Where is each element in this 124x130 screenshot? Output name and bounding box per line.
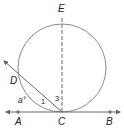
label-a: A bbox=[14, 116, 22, 127]
label-arc-a-degrees: a° bbox=[18, 95, 27, 105]
label-b: B bbox=[106, 116, 113, 127]
label-d: D bbox=[10, 75, 17, 86]
point-b-dot bbox=[108, 110, 112, 114]
label-c: C bbox=[58, 116, 66, 127]
label-angle-3: 3 bbox=[55, 94, 59, 103]
label-angle-1: 1 bbox=[41, 97, 45, 106]
label-e: E bbox=[58, 3, 65, 14]
geometry-diagram: E D A C B a° 1 3 bbox=[0, 0, 124, 130]
point-a-dot bbox=[16, 110, 20, 114]
secant-ray-cd bbox=[4, 61, 62, 112]
